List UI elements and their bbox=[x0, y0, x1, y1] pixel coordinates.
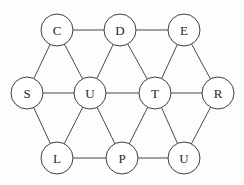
graph-edge-T-U2 bbox=[162, 108, 178, 144]
graph-edge-C-U1 bbox=[64, 44, 82, 79]
graph-edge-E-R bbox=[192, 44, 211, 79]
graph-edge-E-T bbox=[162, 45, 178, 79]
graph-node-label-L: L bbox=[53, 151, 61, 166]
graph-node-label-S: S bbox=[23, 86, 30, 101]
graph-diagram: CDESUTRLPU bbox=[0, 0, 244, 185]
node-layer: CDESUTRLPU bbox=[11, 14, 234, 174]
graph-edge-D-U1 bbox=[97, 44, 113, 78]
graph-edge-D-T bbox=[128, 44, 147, 79]
graph-edge-U1-L bbox=[64, 107, 83, 143]
graph-node-label-D: D bbox=[115, 23, 124, 38]
graph-node-label-U1: U bbox=[85, 86, 95, 101]
graph-canvas: CDESUTRLPU bbox=[0, 0, 244, 185]
graph-node-E[interactable]: E bbox=[168, 14, 200, 46]
graph-node-S[interactable]: S bbox=[11, 77, 43, 109]
graph-edge-R-U2 bbox=[191, 107, 210, 144]
graph-edge-C-S bbox=[34, 44, 50, 78]
graph-node-label-E: E bbox=[180, 23, 188, 38]
graph-edge-U1-P bbox=[97, 107, 115, 143]
graph-node-U1[interactable]: U bbox=[74, 77, 106, 109]
graph-node-D[interactable]: D bbox=[104, 14, 136, 46]
graph-node-U2[interactable]: U bbox=[168, 142, 200, 174]
graph-node-label-P: P bbox=[118, 151, 125, 166]
graph-node-R[interactable]: R bbox=[202, 77, 234, 109]
graph-node-L[interactable]: L bbox=[41, 142, 73, 174]
graph-node-P[interactable]: P bbox=[106, 142, 138, 174]
graph-node-label-R: R bbox=[214, 86, 223, 101]
graph-edge-S-L bbox=[34, 108, 51, 144]
graph-node-label-C: C bbox=[53, 23, 62, 38]
graph-node-T[interactable]: T bbox=[139, 77, 171, 109]
graph-node-C[interactable]: C bbox=[41, 14, 73, 46]
graph-node-label-T: T bbox=[151, 86, 159, 101]
edge-layer bbox=[34, 30, 211, 158]
graph-node-label-U2: U bbox=[179, 151, 189, 166]
graph-edge-T-P bbox=[129, 107, 148, 143]
